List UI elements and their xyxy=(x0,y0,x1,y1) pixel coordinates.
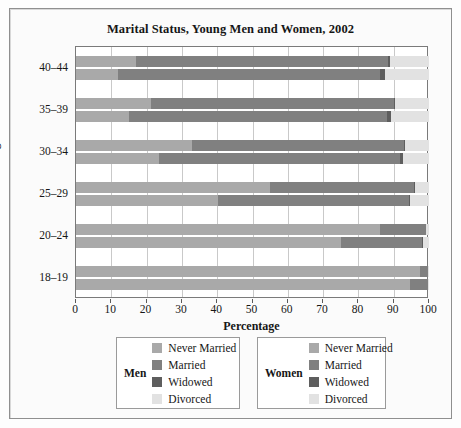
bar-segment-divorced xyxy=(395,98,429,109)
bar-segment-married xyxy=(420,266,428,277)
legend-item: Married xyxy=(309,357,393,372)
bar-segment-divorced xyxy=(391,111,429,122)
y-tick-label: 25–29 xyxy=(4,187,68,199)
bar-segment-married xyxy=(380,224,426,235)
x-tick-label: 20 xyxy=(126,303,166,315)
legend-swatch-married-icon xyxy=(309,360,319,370)
legend-item: Divorced xyxy=(309,391,393,406)
gridline xyxy=(323,47,324,297)
x-tick-label: 90 xyxy=(373,303,413,315)
bar-men-1 xyxy=(76,98,427,109)
legend-item: Never Married xyxy=(152,340,236,355)
bar-segment-married xyxy=(410,279,428,290)
bar-segment-divorced xyxy=(410,195,429,206)
y-tick-label: 40–44 xyxy=(4,61,68,73)
gridline xyxy=(253,47,254,297)
legend-men: Men Never MarriedMarriedWidowedDivorced xyxy=(116,337,240,409)
bar-women-0 xyxy=(76,69,427,80)
gridline xyxy=(217,47,218,297)
gridline xyxy=(182,47,183,297)
bar-segment-divorced xyxy=(390,56,429,67)
bar-segment-married xyxy=(192,140,403,151)
legend-item: Widowed xyxy=(152,374,236,389)
chart-title: Marital Status, Young Men and Women, 200… xyxy=(0,22,461,37)
bar-segment-married xyxy=(341,237,422,248)
gridline xyxy=(394,47,395,297)
x-tick-label: 60 xyxy=(267,303,307,315)
legend-women: Women Never MarriedMarriedWidowedDivorce… xyxy=(257,337,386,409)
legend-item: Widowed xyxy=(309,374,393,389)
legend-item: Never Married xyxy=(309,340,393,355)
legend-men-title: Men xyxy=(117,367,152,379)
bar-segment-married xyxy=(218,195,409,206)
bar-segment-never-married xyxy=(76,195,218,206)
x-axis-title: Percentage xyxy=(75,319,428,334)
bar-segment-divorced xyxy=(428,266,429,277)
legend-label: Married xyxy=(168,359,205,371)
bar-segment-never-married xyxy=(76,69,118,80)
x-tick-label: 100 xyxy=(408,303,448,315)
y-tick-label: 20–24 xyxy=(4,229,68,241)
x-tick-label: 10 xyxy=(90,303,130,315)
bar-women-4 xyxy=(76,237,427,248)
bar-segment-divorced xyxy=(415,182,429,193)
y-tick-label: 18–19 xyxy=(4,271,68,283)
bar-segment-never-married xyxy=(76,140,192,151)
legend-swatch-divorced-icon xyxy=(309,394,319,404)
legend-women-title: Women xyxy=(258,367,309,379)
legend-swatch-married-icon xyxy=(152,360,162,370)
x-tick-label: 0 xyxy=(55,303,95,315)
legend-label: Widowed xyxy=(325,376,369,388)
legend-label: Never Married xyxy=(325,342,393,354)
bar-segment-divorced xyxy=(423,237,429,248)
bar-women-3 xyxy=(76,195,427,206)
x-tick-label: 70 xyxy=(302,303,342,315)
x-tick-label: 30 xyxy=(161,303,201,315)
bar-segment-divorced xyxy=(385,69,429,80)
bar-segment-never-married xyxy=(76,279,410,290)
y-tick-label: 30–34 xyxy=(4,145,68,157)
bar-segment-never-married xyxy=(76,182,270,193)
bar-segment-divorced xyxy=(405,140,429,151)
bar-men-5 xyxy=(76,266,427,277)
bar-segment-divorced xyxy=(403,153,429,164)
gridline xyxy=(111,47,112,297)
legend-swatch-never-married-icon xyxy=(152,343,162,353)
legend-label: Married xyxy=(325,359,362,371)
x-tick-label: 80 xyxy=(337,303,377,315)
legend-men-items: Never MarriedMarriedWidowedDivorced xyxy=(152,340,236,406)
gridline xyxy=(147,47,148,297)
x-tick-label: 50 xyxy=(232,303,272,315)
legend-swatch-widowed-icon xyxy=(152,377,162,387)
bar-segment-married xyxy=(136,56,388,67)
bar-women-1 xyxy=(76,111,427,122)
bar-segment-never-married xyxy=(76,153,159,164)
legend-item: Divorced xyxy=(152,391,236,406)
legend-swatch-widowed-icon xyxy=(309,377,319,387)
bar-segment-married xyxy=(270,182,414,193)
y-tick-label: 35–39 xyxy=(4,103,68,115)
legend-label: Divorced xyxy=(168,393,211,405)
bar-segment-divorced xyxy=(428,279,429,290)
bar-segment-divorced xyxy=(426,224,429,235)
bar-segment-married xyxy=(151,98,394,109)
chart-figure: Marital Status, Young Men and Women, 200… xyxy=(0,0,461,428)
bar-segment-never-married xyxy=(76,98,151,109)
bar-men-0 xyxy=(76,56,427,67)
legend-label: Divorced xyxy=(325,393,368,405)
bar-men-3 xyxy=(76,182,427,193)
bar-segment-married xyxy=(129,111,387,122)
bar-segment-never-married xyxy=(76,111,129,122)
bar-segment-married xyxy=(159,153,400,164)
gridline xyxy=(358,47,359,297)
plot-area xyxy=(75,46,428,298)
bar-women-2 xyxy=(76,153,427,164)
bar-segment-never-married xyxy=(76,224,380,235)
bar-men-4 xyxy=(76,224,427,235)
gridline xyxy=(288,47,289,297)
bar-segment-never-married xyxy=(76,237,341,248)
bar-women-5 xyxy=(76,279,427,290)
legend-item: Married xyxy=(152,357,236,372)
y-axis-title: Age xyxy=(0,138,2,158)
bar-segment-never-married xyxy=(76,56,136,67)
